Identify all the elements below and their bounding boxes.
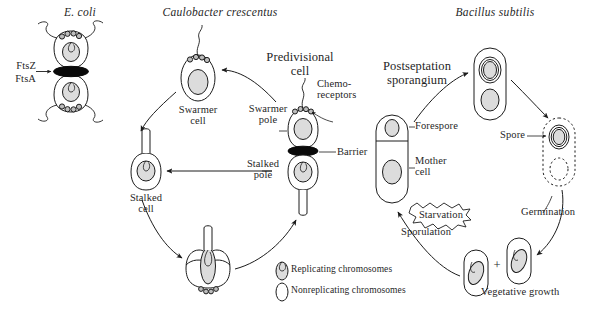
legend-replicating: Replicating chromosomes — [291, 264, 461, 274]
bacillus-vegetative-cell-2 — [507, 238, 531, 284]
caulobacter-predivisional-cell — [288, 78, 318, 215]
bacillus-postseptation-sporangium — [376, 115, 408, 203]
label-starvation: Starvation — [410, 209, 472, 220]
bacillus-maturing-sporangium — [474, 48, 506, 120]
label-swarmer-cell: Swarmer cell — [163, 104, 233, 127]
label-germination: Germination — [521, 206, 597, 217]
label-sporulation: Sporulation — [388, 226, 464, 237]
legend-glyphs — [276, 262, 288, 301]
label-stalked-cell: Stalked cell — [111, 192, 181, 215]
figure-canvas: E. coli Caulobacter crescentus Bacillus … — [0, 0, 598, 318]
species-title-caulobacter: Caulobacter crescentus — [150, 6, 290, 18]
legend-nonreplicating: Nonreplicating chromosomes — [291, 285, 471, 295]
caulobacter-dividing-cell — [186, 226, 230, 294]
label-vegetative-growth: Vegetative growth — [481, 286, 581, 297]
label-plus-sign: + — [490, 259, 504, 273]
label-spore: Spore — [483, 129, 525, 140]
species-title-bacillus: Bacillus subtilis — [425, 6, 565, 18]
label-swarmer-pole: Swarmer pole — [241, 103, 295, 126]
bacillus-spore-release — [543, 118, 575, 186]
label-barrier: Barrier — [337, 146, 389, 157]
label-forespore: Forespore — [415, 120, 475, 131]
label-predivisional-cell: Predivisional cell — [245, 51, 355, 78]
label-postseptation-sporangium: Postseptation sporangium — [362, 60, 472, 87]
label-mother-cell: Mother cell — [415, 155, 461, 178]
ecoli-dividing-cell — [36, 21, 103, 122]
caulobacter-stalked-cell — [131, 129, 161, 190]
label-ftsz: FtsZ — [0, 60, 36, 71]
species-title-ecoli: E. coli — [45, 6, 115, 18]
label-ftsa: FtsA — [0, 73, 36, 84]
caulobacter-swarmer-cell — [181, 25, 215, 101]
label-stalked-pole: Stalked pole — [236, 158, 290, 181]
